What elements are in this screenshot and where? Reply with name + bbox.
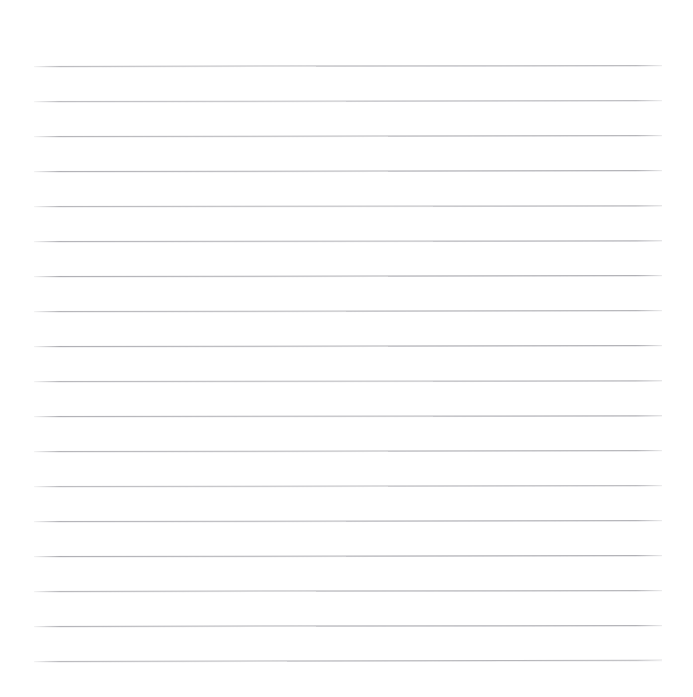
rule-line <box>34 485 662 487</box>
rule-line <box>34 520 662 522</box>
rule-line <box>34 205 662 207</box>
rule-line <box>34 65 662 67</box>
rule-line <box>34 660 662 662</box>
rule-line <box>34 555 662 557</box>
rule-line <box>34 275 662 277</box>
rule-line <box>34 240 662 242</box>
rule-line <box>34 310 662 312</box>
rule-line <box>34 135 662 137</box>
rule-line <box>34 415 662 417</box>
rule-line <box>34 170 662 172</box>
rule-line <box>34 625 662 627</box>
rule-line <box>34 590 662 592</box>
rule-line <box>34 345 662 347</box>
rule-line <box>34 380 662 382</box>
rule-line <box>34 100 662 102</box>
ruled-paper-page <box>0 0 693 697</box>
rule-line <box>34 450 662 452</box>
